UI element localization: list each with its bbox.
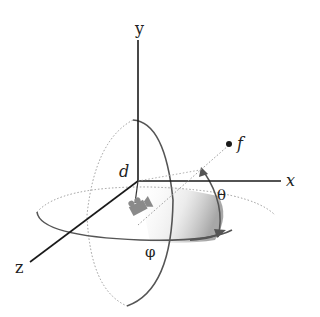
azimuth-shaded-region (138, 180, 223, 243)
distance-label: d (119, 162, 129, 181)
z-axis-label: z (15, 258, 23, 277)
x-axis-label: x (286, 171, 295, 190)
vertical-circle-back (87, 120, 133, 306)
y-axis-label: y (134, 19, 144, 38)
azimuth-label: φ (145, 243, 156, 261)
spherical-coordinates-diagram: y x z d f θ φ (0, 0, 320, 317)
point-icon (226, 141, 232, 147)
focus-label: f (236, 134, 246, 153)
z-axis (30, 181, 138, 262)
elevation-label: θ (217, 186, 226, 204)
